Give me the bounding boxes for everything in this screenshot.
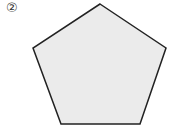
pentagon-figure [0,0,170,130]
pentagon-shape [33,4,166,124]
